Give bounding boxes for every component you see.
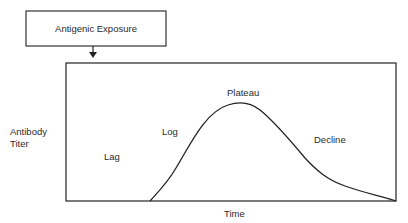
antigenic-exposure-label: Antigenic Exposure <box>26 11 166 46</box>
exposure-arrow-head-icon <box>89 52 97 58</box>
phase-label-lag: Lag <box>104 151 120 162</box>
phase-label-plateau: Plateau <box>227 87 259 98</box>
x-axis-label: Time <box>224 208 245 219</box>
phase-label-log: Log <box>162 126 178 137</box>
phase-label-decline: Decline <box>314 134 346 145</box>
y-axis-label-line-2: Titer <box>10 138 29 149</box>
chart-frame <box>66 63 396 201</box>
antibody-response-curve <box>150 103 396 201</box>
y-axis-label-line-1: Antibody <box>10 126 47 137</box>
